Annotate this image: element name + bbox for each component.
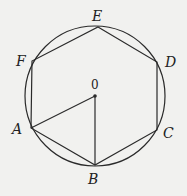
vertex-label-e: E bbox=[91, 8, 102, 24]
hexagon-diagram: 0 E D C B A F bbox=[0, 0, 187, 196]
center-label: 0 bbox=[91, 78, 99, 92]
vertex-label-c: C bbox=[163, 125, 174, 141]
vertex-label-a: A bbox=[10, 121, 22, 137]
vertex-label-b: B bbox=[87, 171, 98, 187]
vertex-label-f: F bbox=[15, 53, 27, 69]
radius-oa bbox=[31, 96, 95, 128]
vertex-label-d: D bbox=[164, 54, 176, 70]
center-point bbox=[93, 94, 97, 98]
